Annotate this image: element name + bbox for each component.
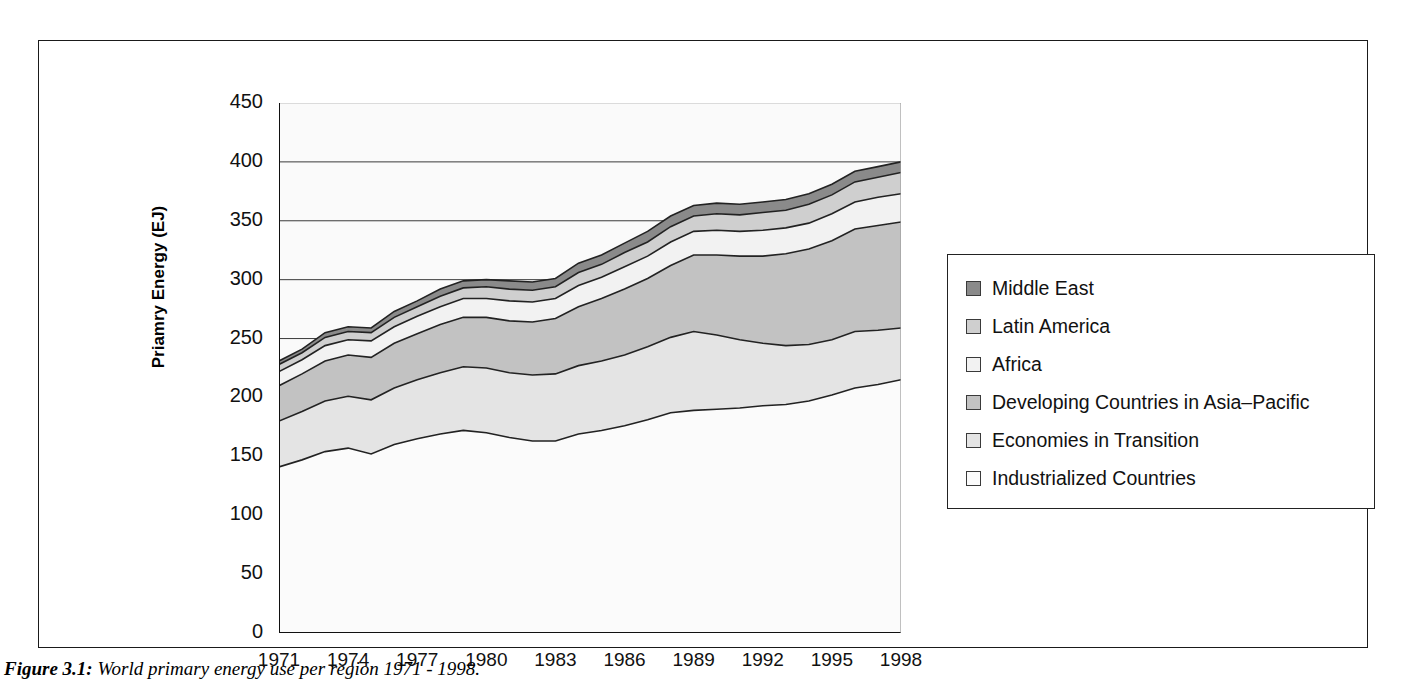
y-axis-tick-label: 450 xyxy=(203,90,263,113)
x-axis-tick-label: 1986 xyxy=(590,649,660,671)
legend-item[interactable]: Middle East xyxy=(966,269,1374,307)
x-axis-tick-label: 1998 xyxy=(866,649,936,671)
legend-swatch-icon xyxy=(966,281,981,296)
legend-swatch-icon xyxy=(966,395,981,410)
y-axis-tick-label: 350 xyxy=(203,208,263,231)
chart-plot-area xyxy=(279,103,901,633)
x-axis-tick-label: 1983 xyxy=(520,649,590,671)
x-axis-tick-label: 1995 xyxy=(797,649,867,671)
legend-item-label: Developing Countries in Asia–Pacific xyxy=(992,391,1310,414)
legend-item-label: Economies in Transition xyxy=(992,429,1199,452)
legend-swatch-icon xyxy=(966,471,981,486)
chart-legend: Middle EastLatin AmericaAfricaDeveloping… xyxy=(947,254,1375,509)
figure-container: Priamry Energy (EJ) 05010015020025030035… xyxy=(0,0,1401,688)
legend-item-label: Middle East xyxy=(992,277,1094,300)
legend-swatch-icon xyxy=(966,319,981,334)
y-axis-tick-label: 100 xyxy=(203,502,263,525)
figure-caption-text: World primary energy use per region 1971… xyxy=(97,658,480,679)
legend-swatch-icon xyxy=(966,357,981,372)
y-axis-title: Priamry Energy (EJ) xyxy=(149,157,169,417)
stacked-area-chart xyxy=(279,103,901,633)
y-axis-tick-label: 0 xyxy=(203,620,263,643)
x-axis-tick-label: 1989 xyxy=(659,649,729,671)
legend-item-label: Latin America xyxy=(992,315,1110,338)
legend-item[interactable]: Economies in Transition xyxy=(966,421,1374,459)
x-axis-tick-label: 1992 xyxy=(728,649,798,671)
y-axis-tick-label: 400 xyxy=(203,149,263,172)
figure-frame: Priamry Energy (EJ) 05010015020025030035… xyxy=(38,40,1368,648)
legend-item[interactable]: Developing Countries in Asia–Pacific xyxy=(966,383,1374,421)
legend-item[interactable]: Latin America xyxy=(966,307,1374,345)
y-axis-tick-label: 250 xyxy=(203,326,263,349)
y-axis-tick-label: 150 xyxy=(203,443,263,466)
legend-item[interactable]: Africa xyxy=(966,345,1374,383)
y-axis-tick-label: 300 xyxy=(203,267,263,290)
y-axis-tick-label: 50 xyxy=(203,561,263,584)
figure-caption-number: Figure 3.1: xyxy=(4,658,93,679)
y-axis-tick-label: 200 xyxy=(203,384,263,407)
legend-item[interactable]: Industrialized Countries xyxy=(966,459,1374,497)
legend-swatch-icon xyxy=(966,433,981,448)
legend-item-label: Africa xyxy=(992,353,1042,376)
legend-item-label: Industrialized Countries xyxy=(992,467,1196,490)
figure-caption: Figure 3.1: World primary energy use per… xyxy=(4,658,480,680)
